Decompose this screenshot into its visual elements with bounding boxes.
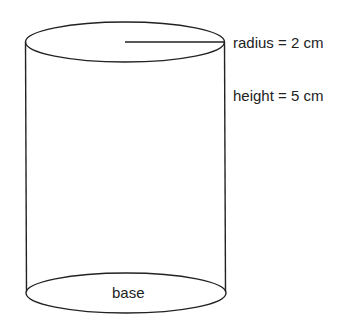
base-label: base: [112, 285, 145, 300]
radius-label: radius = 2 cm: [233, 35, 323, 50]
right-side: [225, 42, 226, 292]
height-label: height = 5 cm: [233, 88, 323, 103]
left-side: [26, 42, 27, 292]
